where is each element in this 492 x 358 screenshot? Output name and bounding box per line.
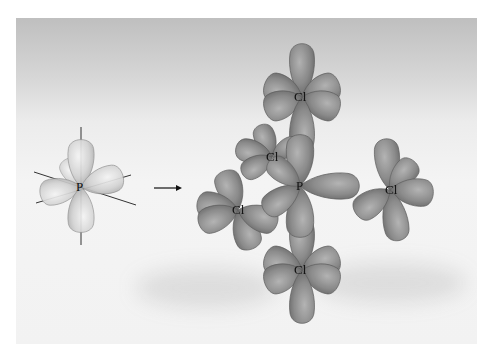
atom-label-cl-top: Cl [294,89,307,104]
orbital-diagram: P [0,0,492,358]
atom-label-p: P [76,179,83,194]
atom-label-p-center: P [296,178,303,193]
atom-label-cl-left: Cl [232,202,245,217]
pcl5-orbitals [195,44,435,324]
atom-label-cl-right: Cl [385,182,398,197]
atom-label-cl-upper-left: Cl [266,149,279,164]
atom-label-cl-bottom: Cl [294,262,307,277]
reaction-arrow [154,185,182,191]
p-hybrid-orbitals: P [34,127,136,245]
